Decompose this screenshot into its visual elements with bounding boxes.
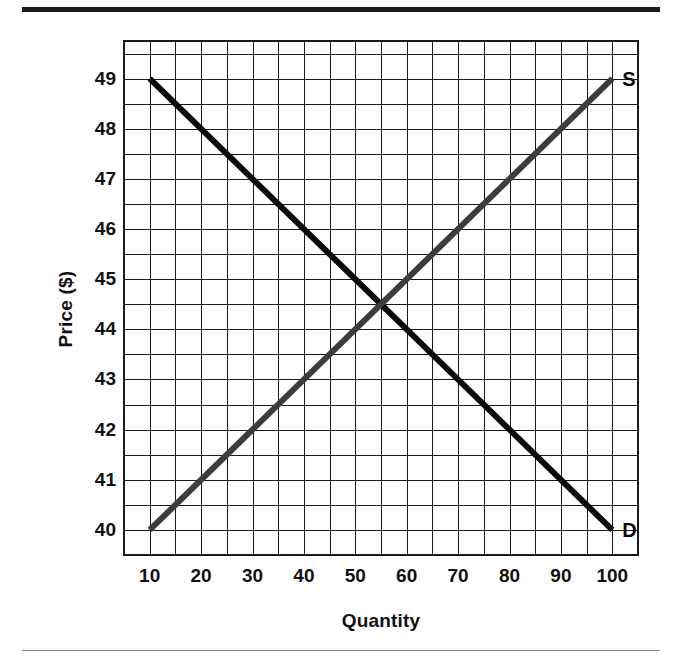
y-tick-label: 40: [72, 519, 116, 541]
y-tick-label: 46: [72, 218, 116, 240]
y-tick-label: 44: [72, 318, 116, 340]
y-tick-label: 43: [72, 368, 116, 390]
y-tick-label: 41: [72, 469, 116, 491]
x-axis-title: Quantity: [124, 610, 638, 632]
y-tick-label: 49: [72, 68, 116, 90]
y-axis-title: Price ($): [55, 229, 77, 389]
bottom-divider-rule: [22, 650, 660, 651]
y-tick-label: 47: [72, 168, 116, 190]
y-tick-label: 48: [72, 118, 116, 140]
figure-container: Price ($) Quantity 40414243444546474849 …: [0, 0, 676, 657]
curve-label-d: D: [622, 518, 636, 541]
y-tick-label: 45: [72, 268, 116, 290]
curve-label-s: S: [622, 67, 635, 90]
y-tick-label: 42: [72, 419, 116, 441]
x-tick-label: 100: [582, 565, 642, 587]
